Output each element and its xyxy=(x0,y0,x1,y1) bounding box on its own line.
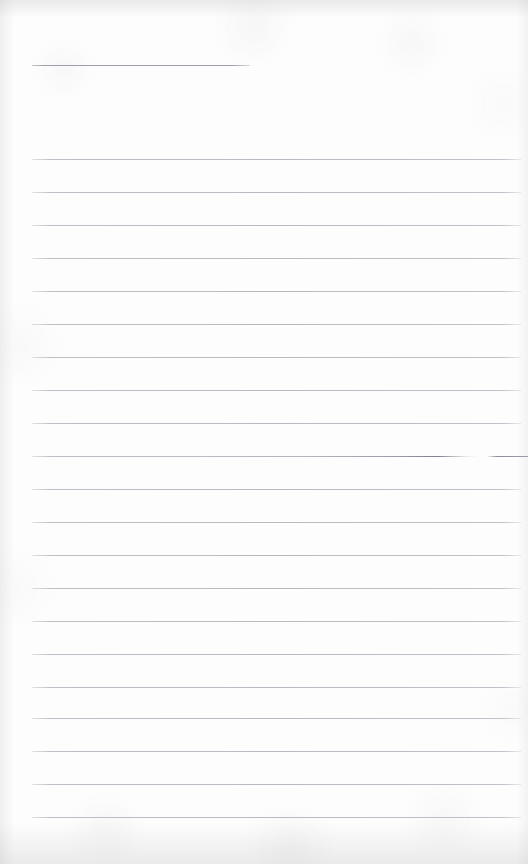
ruled-line xyxy=(32,159,521,160)
ruled-line xyxy=(32,192,521,193)
ruled-line xyxy=(32,225,521,226)
ruled-line xyxy=(32,357,521,358)
header-rule xyxy=(32,65,250,66)
ruled-line xyxy=(32,555,521,556)
ruled-line xyxy=(32,654,521,655)
scanned-page xyxy=(0,0,528,864)
ruled-line xyxy=(32,751,521,752)
ruled-line xyxy=(32,522,521,523)
ruled-line xyxy=(32,687,521,688)
ruled-line xyxy=(32,291,521,292)
ruled-line xyxy=(32,258,521,259)
ruled-line xyxy=(32,423,521,424)
ruled-line xyxy=(32,621,521,622)
ruled-line xyxy=(32,817,521,818)
ruled-line xyxy=(32,718,521,719)
ruled-line xyxy=(32,588,521,589)
paper-background xyxy=(0,0,528,864)
ruled-line-tail xyxy=(497,456,528,457)
ruled-line xyxy=(32,489,521,490)
ruled-line xyxy=(32,390,521,391)
ruled-line xyxy=(32,784,521,785)
ruled-line xyxy=(32,456,521,457)
ruled-line xyxy=(32,324,521,325)
